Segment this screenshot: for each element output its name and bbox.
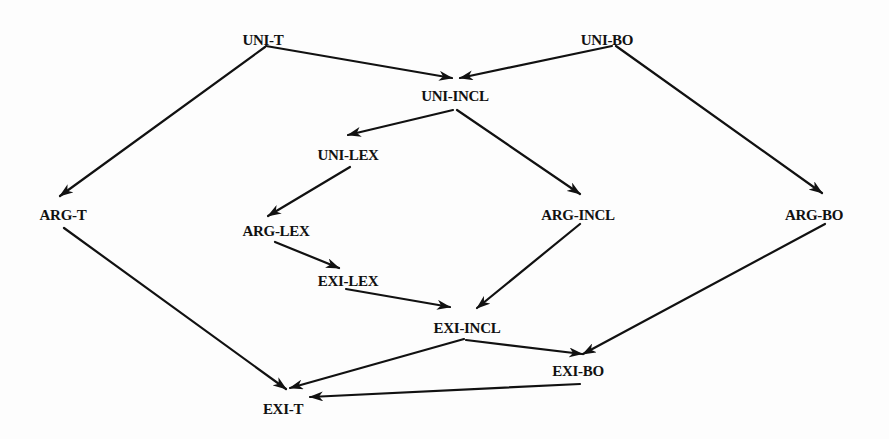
edge-uni-t-to-arg-t bbox=[60, 47, 265, 196]
node-uni-incl: UNI-INCL bbox=[421, 88, 489, 105]
edge-exi-bo-to-exi-t bbox=[310, 384, 580, 397]
edge-arg-lex-to-exi-lex bbox=[275, 242, 339, 268]
edge-uni-t-to-uni-incl bbox=[266, 46, 452, 78]
node-arg-lex: ARG-LEX bbox=[242, 223, 309, 240]
node-exi-t: EXI-T bbox=[263, 401, 303, 418]
edge-uni-incl-to-arg-incl bbox=[457, 110, 580, 194]
edge-arg-incl-to-exi-incl bbox=[477, 224, 580, 308]
edge-exi-lex-to-exi-incl bbox=[346, 289, 450, 307]
edge-exi-incl-to-exi-t bbox=[290, 339, 464, 388]
edge-arg-t-to-exi-t bbox=[64, 228, 286, 389]
edge-layer bbox=[0, 0, 889, 439]
node-exi-bo: EXI-BO bbox=[552, 363, 604, 380]
node-arg-bo: ARG-BO bbox=[785, 207, 843, 224]
edge-uni-bo-to-arg-bo bbox=[616, 46, 822, 193]
node-uni-t: UNI-T bbox=[242, 32, 283, 49]
node-exi-lex: EXI-LEX bbox=[318, 273, 378, 290]
edge-uni-incl-to-uni-lex bbox=[348, 110, 453, 135]
edge-uni-lex-to-arg-lex bbox=[268, 167, 350, 216]
edge-uni-bo-to-uni-incl bbox=[460, 46, 612, 78]
node-uni-bo: UNI-BO bbox=[581, 32, 633, 49]
edge-exi-incl-to-exi-bo bbox=[466, 340, 582, 354]
node-uni-lex: UNI-LEX bbox=[317, 147, 378, 164]
edge-arg-bo-to-exi-bo bbox=[583, 224, 825, 354]
node-arg-t: ARG-T bbox=[40, 207, 87, 224]
node-exi-incl: EXI-INCL bbox=[434, 320, 501, 337]
node-arg-incl: ARG-INCL bbox=[541, 207, 614, 224]
lattice-diagram: UNI-TUNI-BOUNI-INCLUNI-LEXARG-TARG-LEXAR… bbox=[0, 0, 889, 439]
